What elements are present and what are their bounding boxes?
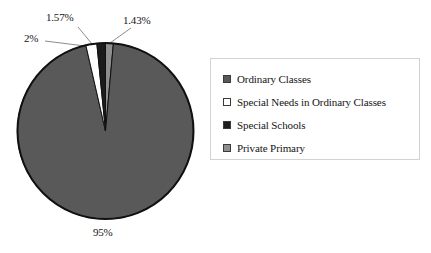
legend-label-special-needs: Special Needs in Ordinary Classes — [237, 96, 386, 108]
chart-legend: Ordinary Classes Special Needs in Ordina… — [210, 58, 420, 160]
legend-item-ordinary-classes[interactable]: Ordinary Classes — [223, 68, 419, 90]
legend-label-private-primary: Private Primary — [237, 142, 305, 154]
leader-line-2 — [45, 41, 85, 46]
leader-line-143 — [110, 28, 131, 43]
legend-item-special-schools[interactable]: Special Schools — [223, 114, 419, 136]
data-label-ordinary-classes: 95% — [93, 226, 113, 238]
legend-item-private-primary[interactable]: Private Primary — [223, 137, 419, 159]
legend-label-special-schools: Special Schools — [237, 119, 305, 131]
legend-swatch-icon-special-needs — [223, 98, 231, 106]
pie-slices — [17, 43, 193, 219]
pie-chart-figure: 1.57% 1.43% 2% 95% Ordinary Classes Spec… — [0, 0, 431, 253]
legend-label-ordinary-classes: Ordinary Classes — [237, 73, 311, 85]
legend-item-special-needs[interactable]: Special Needs in Ordinary Classes — [223, 91, 419, 113]
data-label-special-needs: 2% — [24, 32, 38, 44]
legend-list: Ordinary Classes Special Needs in Ordina… — [211, 59, 419, 159]
legend-swatch-icon-special-schools — [223, 121, 231, 129]
legend-swatch-icon-private-primary — [223, 144, 231, 152]
data-label-special-schools: 1.57% — [46, 11, 73, 23]
data-label-private-primary: 1.43% — [123, 14, 150, 26]
leader-line-157 — [78, 27, 92, 44]
legend-swatch-icon-ordinary-classes — [223, 75, 231, 83]
